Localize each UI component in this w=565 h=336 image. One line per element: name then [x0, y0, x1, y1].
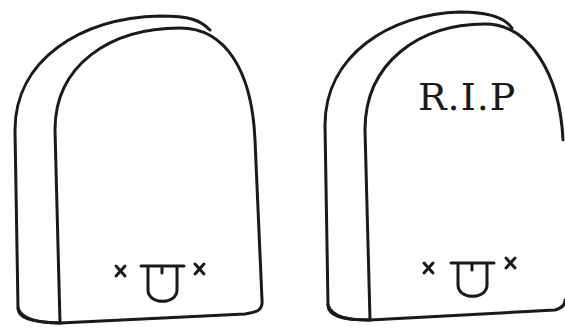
dead-face-icon: [424, 258, 515, 296]
tombstones-illustration: R.I.P: [0, 0, 565, 336]
tombstone-right: R.I.P: [325, 12, 565, 320]
rip-engraving: R.I.P: [418, 75, 516, 119]
tombstone-left: [15, 16, 262, 323]
dead-face-icon: [116, 264, 204, 301]
